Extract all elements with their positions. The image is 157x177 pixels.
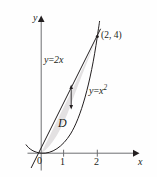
region-label: D bbox=[58, 117, 67, 129]
x-axis-label: x bbox=[138, 157, 142, 167]
intersection-point-label: (2, 4) bbox=[101, 31, 122, 41]
origin-tick-label: 0 bbox=[37, 156, 42, 166]
graph-plot bbox=[0, 0, 157, 177]
point-marker-2-4 bbox=[96, 35, 99, 38]
line-equation-label: y=2x bbox=[44, 55, 64, 65]
x-tick-label-1: 1 bbox=[60, 157, 65, 167]
figure-canvas: y x 0 1 2 y=2x y=x2 (2, 4) D bbox=[0, 0, 157, 177]
parabola-equation-exponent: 2 bbox=[104, 84, 108, 92]
line-equation-rhs: 2x bbox=[54, 54, 63, 65]
x-tick-label-2: 2 bbox=[94, 157, 99, 167]
y-axis-label: y bbox=[33, 13, 37, 23]
parabola-equation-label: y=x2 bbox=[89, 85, 107, 96]
